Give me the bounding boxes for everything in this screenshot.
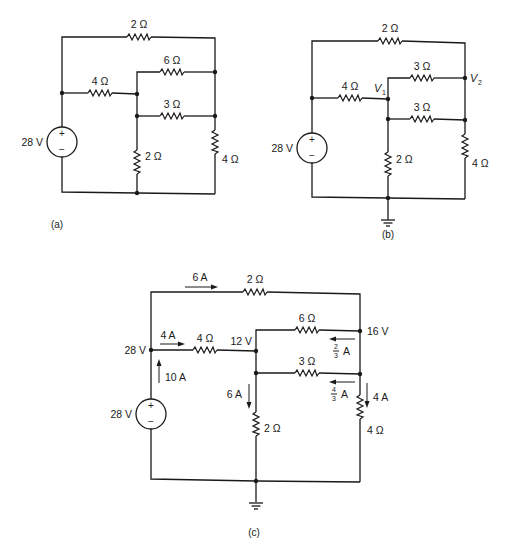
label-a-source: 28 V (21, 136, 43, 148)
resistor-right-4ohm (462, 134, 468, 158)
label-b-center-2ohm: 2 Ω (396, 153, 413, 165)
label-a-4ohm: 4 Ω (92, 75, 109, 87)
resistor-top-2ohm (378, 38, 402, 44)
label-a-top-2ohm: 2 Ω (131, 18, 148, 30)
junction-dots-a (60, 70, 217, 195)
current-center-vertical: 6 A (227, 384, 252, 409)
current-source: 10 A (157, 359, 187, 383)
figure-c: + − 2 Ω 4 Ω 6 Ω 3 Ω 2 Ω 4 Ω 28 V 28 V 12… (110, 271, 388, 538)
current-right-vertical: 4 A (365, 383, 389, 408)
resistor-4ohm (193, 347, 217, 353)
current-left-mid: 4 A (160, 329, 185, 347)
resistor-center-2ohm (134, 150, 140, 174)
resistor-6ohm (410, 75, 434, 81)
label-c-top-2ohm: 2 Ω (247, 273, 264, 285)
figure-b: + − 2 Ω 4 Ω 3 Ω 3 Ω 2 Ω 4 Ω 28 V V 1 V 2… (271, 22, 488, 240)
resistor-top-2ohm (243, 289, 267, 295)
svg-text:10 A: 10 A (165, 371, 186, 383)
current-top: 6 A (185, 271, 218, 290)
label-b-4ohm: 4 Ω (342, 80, 359, 92)
figure-a: + − 2 Ω 4 Ω 6 Ω 3 Ω 2 Ω 4 Ω 28 V (a) (21, 18, 238, 230)
svg-text:−: − (148, 416, 154, 427)
ground-icon (381, 220, 395, 226)
label-c-4ohm: 4 Ω (197, 332, 214, 344)
caption-a: (a) (51, 219, 63, 230)
resistor-6ohm (160, 69, 184, 75)
label-b-source: 28 V (271, 142, 293, 154)
label-c-3ohm: 3 Ω (299, 355, 316, 367)
svg-text:A: A (343, 345, 350, 357)
caption-c: (c) (248, 527, 260, 538)
svg-text:4 A: 4 A (160, 329, 175, 341)
voltage-source-c: + − (136, 399, 166, 429)
resistor-center-2ohm (253, 412, 259, 436)
resistor-right-4ohm (212, 130, 218, 154)
circuit-diagrams: + − 2 Ω 4 Ω 6 Ω 3 Ω 2 Ω 4 Ω 28 V (a) (0, 0, 508, 547)
resistor-top-2ohm (127, 34, 151, 40)
resistor-3ohm (160, 113, 184, 119)
resistor-3ohm (295, 370, 319, 376)
label-b-top-2ohm: 2 Ω (382, 22, 399, 34)
wires-c (151, 292, 360, 502)
caption-b: (b) (382, 229, 394, 240)
label-c-source: 28 V (110, 408, 132, 420)
ground-icon (249, 503, 263, 509)
label-c-right-4ohm: 4 Ω (367, 424, 384, 436)
svg-text:4 A: 4 A (373, 391, 388, 403)
svg-text:+: + (59, 128, 65, 139)
resistor-4ohm (88, 90, 112, 96)
label-a-right-4ohm: 4 Ω (222, 153, 239, 165)
svg-text:2: 2 (478, 79, 482, 86)
wires-b (312, 41, 465, 220)
label-a-center-2ohm: 2 Ω (145, 150, 162, 162)
current-middle-right: 4 3 A (329, 380, 355, 403)
svg-text:−: − (59, 144, 65, 155)
label-c-6ohm: 6 Ω (299, 312, 316, 324)
svg-text:1: 1 (382, 89, 386, 96)
svg-text:+: + (309, 134, 315, 145)
resistor-center-2ohm (385, 152, 391, 176)
svg-text:6 A: 6 A (227, 388, 242, 400)
resistor-right-4ohm (357, 395, 363, 419)
resistor-4ohm (338, 95, 362, 101)
svg-text:A: A (341, 388, 348, 400)
svg-text:6 A: 6 A (192, 271, 207, 283)
label-c-center-2ohm: 2 Ω (264, 422, 281, 434)
label-b-right-4ohm: 4 Ω (472, 157, 489, 169)
voltage-source-a: + − (47, 127, 77, 157)
node-voltage-left: 28 V (124, 344, 146, 356)
label-a-3ohm: 3 Ω (164, 98, 181, 110)
node-voltage-center: 12 V (230, 335, 252, 347)
svg-text:−: − (309, 150, 315, 161)
voltage-source-b: + − (297, 133, 327, 163)
node-label-v2: V 2 (470, 72, 482, 86)
label-a-6ohm: 6 Ω (164, 54, 181, 66)
svg-text:2: 2 (334, 343, 338, 350)
svg-text:+: + (148, 400, 154, 411)
label-b-6ohm: 3 Ω (414, 60, 431, 72)
resistor-6ohm (295, 327, 319, 333)
svg-text:3: 3 (332, 395, 336, 402)
resistor-3ohm (410, 116, 434, 122)
node-voltage-right: 16 V (367, 325, 389, 337)
current-upper-right: 2 3 A (329, 337, 355, 360)
node-label-v1: V 1 (374, 82, 386, 96)
label-b-3ohm: 3 Ω (414, 101, 431, 113)
svg-text:4: 4 (332, 386, 336, 393)
svg-text:3: 3 (334, 352, 338, 359)
